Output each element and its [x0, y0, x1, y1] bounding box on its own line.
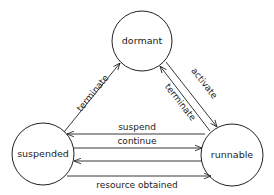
transition-label-continue: continue: [117, 136, 157, 146]
state-suspended-label: suspended: [17, 148, 69, 159]
transition-label-terminate-left: terminate: [75, 72, 111, 113]
state-runnable: runnable: [201, 124, 263, 186]
state-diagram: dormant suspended runnable terminate ter…: [0, 0, 274, 195]
transition-suspended-to-runnable-resource: resource obtained: [67, 176, 211, 190]
transition-suspended-to-dormant: terminate: [64, 63, 120, 132]
transition-label-activate: activate: [189, 66, 220, 101]
transition-runnable-to-suspended-suspend: suspend: [67, 122, 205, 134]
state-dormant: dormant: [112, 11, 172, 71]
state-dormant-label: dormant: [122, 35, 163, 46]
state-suspended: suspended: [12, 123, 74, 185]
transition-label-terminate-right: terminate: [163, 82, 198, 123]
transition-label-resource-obtained: resource obtained: [96, 180, 178, 190]
transition-suspended-to-runnable-continue: continue: [74, 136, 202, 148]
state-runnable-label: runnable: [211, 149, 253, 160]
transition-label-suspend: suspend: [118, 122, 156, 132]
